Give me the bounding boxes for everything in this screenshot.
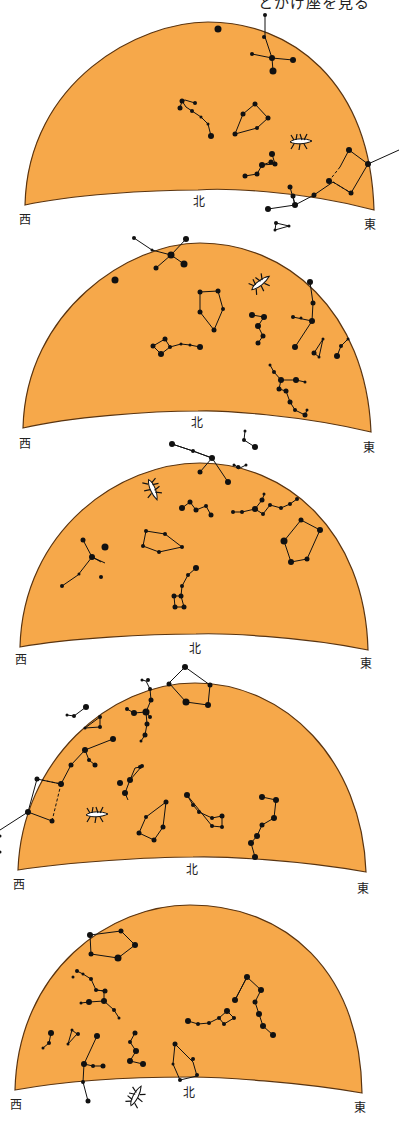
east-label-3: 東	[360, 657, 372, 671]
north-label-5: 北	[183, 1086, 195, 1100]
west-label-3: 西	[15, 653, 27, 667]
sky-panel-4	[0, 664, 366, 872]
sky-dome	[18, 683, 366, 872]
sky-diagram: 北 西 東 北 西 東	[0, 0, 399, 1124]
east-label-2: 東	[363, 441, 375, 455]
sky-dome	[15, 905, 362, 1093]
lacerta-icon	[124, 1083, 149, 1110]
sky-panel-5	[15, 905, 362, 1110]
north-label-4: 北	[186, 863, 198, 877]
west-label-1: 西	[19, 213, 31, 227]
west-label-2: 西	[19, 437, 31, 451]
north-label-3: 北	[189, 642, 201, 656]
east-label-5: 東	[354, 1101, 366, 1115]
north-label-2: 北	[191, 416, 203, 430]
sky-dome	[23, 243, 371, 432]
west-label-5: 西	[10, 1098, 22, 1112]
sky-dome	[20, 463, 368, 650]
west-label-4: 西	[13, 878, 25, 892]
sky-panel-3	[20, 444, 368, 650]
east-label-1: 東	[364, 218, 376, 232]
sky-panel-1	[25, 13, 399, 232]
east-label-4: 東	[357, 882, 369, 896]
north-label-1: 北	[193, 195, 205, 209]
